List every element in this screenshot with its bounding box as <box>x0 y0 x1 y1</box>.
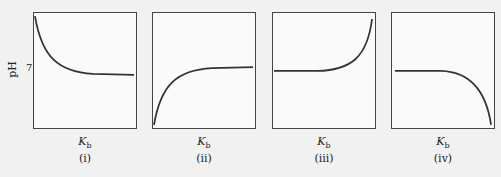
x-axis-label-iv: Kb <box>391 135 495 150</box>
caption-i: (i) <box>33 152 137 165</box>
curve-decreasing-to-7 <box>34 13 136 128</box>
y-axis-label: pH <box>6 60 19 80</box>
curve-increasing-to-7 <box>153 13 255 128</box>
y-tick-7: 7 <box>26 62 32 73</box>
x-axis-label-iii: Kb <box>272 135 376 150</box>
x-axis-label-i: Kb <box>33 135 137 150</box>
curve-flat-then-rising <box>273 13 375 128</box>
curve-flat-then-falling <box>392 13 494 128</box>
x-axis-label-ii: Kb <box>152 135 256 150</box>
chart-panel-iv <box>391 12 495 129</box>
caption-iv: (iv) <box>391 152 495 165</box>
chart-panel-i <box>33 12 137 129</box>
chart-panel-iii <box>272 12 376 129</box>
caption-ii: (ii) <box>152 152 256 165</box>
chart-panel-ii <box>152 12 256 129</box>
caption-iii: (iii) <box>272 152 376 165</box>
